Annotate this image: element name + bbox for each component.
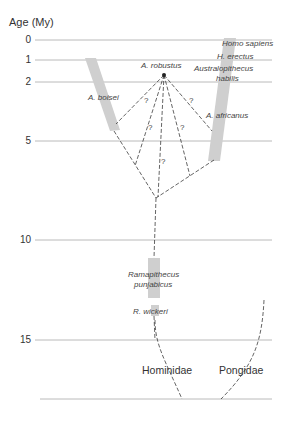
tick-2: 2	[11, 76, 31, 87]
label-a-boisei: A. boisei	[88, 93, 119, 102]
question-mark-1: ?	[144, 96, 148, 105]
label-h-erectus: H. erectus	[217, 52, 253, 61]
label-punjabicus: punjabicus	[134, 280, 172, 289]
tick-0: 0	[11, 34, 31, 45]
label-hominidae: Hominidae	[142, 364, 192, 376]
label-a-africanus: A. africanus	[206, 111, 248, 120]
relationship-lines	[114, 75, 264, 399]
label-habilis: habilis	[216, 74, 239, 83]
tick-1: 1	[11, 54, 31, 65]
question-mark-5: ?	[161, 157, 165, 166]
phylogeny-diagram: Age (My) 0 1 2 5 10 15 Homo sapiens H. e…	[0, 0, 293, 423]
label-australopithecus: Australopithecus	[194, 64, 253, 73]
question-mark-3: ?	[148, 123, 152, 132]
question-mark-4: ?	[180, 123, 184, 132]
label-pongidae: Pongidae	[219, 364, 263, 376]
label-homo-sapiens: Homo sapiens	[222, 39, 273, 48]
tick-5: 5	[11, 135, 31, 146]
question-mark-2: ?	[189, 96, 193, 105]
label-ramapithecus: Ramapithecus	[128, 270, 179, 279]
tick-10: 10	[11, 234, 31, 245]
label-r-wickeri: R. wickeri	[133, 307, 168, 316]
tick-15: 15	[11, 334, 31, 345]
age-gridlines	[35, 40, 272, 399]
label-a-robustus: A. robustus	[141, 61, 181, 70]
axis-title: Age (My)	[9, 16, 54, 28]
